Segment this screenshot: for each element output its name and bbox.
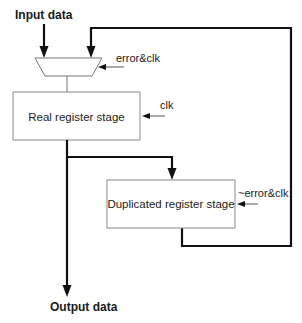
branch-to-duplicate-arrow bbox=[67, 157, 177, 180]
duplicated-register-control-arrow bbox=[237, 201, 258, 207]
register-stage-diagram: Input data error&clk Real register stage… bbox=[0, 0, 302, 323]
mux-control-label: error&clk bbox=[116, 52, 161, 64]
duplicated-register-control-label: ~error&clk bbox=[238, 187, 289, 199]
real-register-clk-arrow bbox=[142, 113, 165, 119]
real-register-label: Real register stage bbox=[28, 111, 125, 123]
input-data-label: Input data bbox=[15, 8, 73, 22]
mux-control-arrow bbox=[98, 64, 124, 70]
input-arrow bbox=[40, 24, 49, 58]
mux-shape bbox=[35, 58, 102, 76]
output-arrow bbox=[63, 140, 72, 297]
output-data-label: Output data bbox=[50, 300, 118, 314]
real-register-clk-label: clk bbox=[160, 99, 174, 111]
duplicated-register-label: Duplicated register stage bbox=[107, 198, 234, 210]
